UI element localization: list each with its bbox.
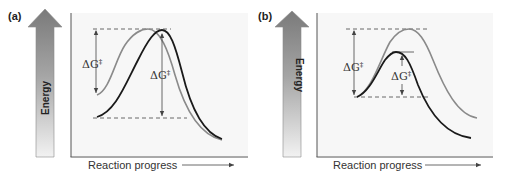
x-axis-label: Reaction progress	[333, 159, 423, 171]
energy-arrow-icon: Energy	[275, 11, 309, 157]
x-axis-label: Reaction progress	[88, 159, 178, 171]
plot-area	[317, 13, 493, 156]
energy-diagram: (a) Energy ΔG‡ ΔG‡ Reaction progress (b)	[0, 0, 506, 183]
y-axis-label: Energy	[40, 81, 51, 115]
panel-a: (a) Energy ΔG‡ ΔG‡ Reaction progress	[8, 9, 248, 171]
panel-a-label: (a)	[8, 10, 22, 22]
panel-b-label: (b)	[258, 10, 272, 22]
energy-arrow-icon: Energy	[28, 9, 62, 157]
plot-area	[71, 13, 248, 156]
y-axis-label: Energy	[294, 58, 305, 92]
panel-b: (b) Energy ΔG‡ ΔG‡ Reaction progress	[258, 10, 493, 171]
